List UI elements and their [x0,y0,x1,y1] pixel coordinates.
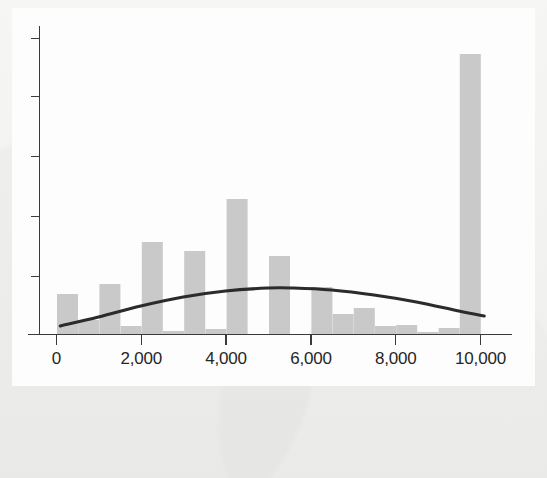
histogram-bar [121,326,142,334]
histogram-bar [439,328,460,334]
x-axis-tick-label: 10,000 [455,349,506,368]
histogram-bar [57,294,78,334]
histogram-bar [163,331,184,334]
histogram-bar [460,54,481,334]
histogram-bar [311,287,332,334]
x-axis-tick-label: 0 [52,349,61,368]
chart-svg: 02,0004,0006,0008,00010,000 [12,8,535,386]
histogram-bar [227,199,248,334]
x-axis: 02,0004,0006,0008,00010,000 [28,334,512,368]
histogram-bar [333,314,354,334]
bar-series [57,54,481,334]
figure-panel: 02,0004,0006,0008,00010,000 [12,8,535,386]
y-axis-ticks [31,39,40,277]
histogram-bar [99,284,120,334]
histogram-bar [205,329,226,334]
histogram-chart: 02,0004,0006,0008,00010,000 [12,8,535,386]
histogram-bar [396,325,417,334]
histogram-bar [354,308,375,334]
x-axis-tick-labels: 02,0004,0006,0008,00010,000 [52,349,506,368]
histogram-bar [375,326,396,334]
histogram-bar [269,256,290,334]
y-axis [31,26,40,335]
x-axis-tick-label: 6,000 [290,349,332,368]
x-axis-ticks [57,334,481,345]
x-axis-tick-label: 4,000 [205,349,247,368]
x-axis-tick-label: 8,000 [375,349,417,368]
x-axis-tick-label: 2,000 [121,349,163,368]
histogram-bar [142,242,163,334]
